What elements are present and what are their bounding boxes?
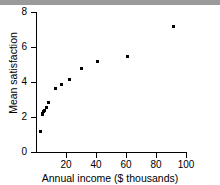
- y-tick: [31, 47, 36, 48]
- data-point: [96, 60, 99, 63]
- y-tick: [31, 12, 36, 13]
- data-point: [47, 101, 50, 104]
- data-point: [39, 130, 42, 133]
- x-tick-label: 100: [174, 160, 198, 170]
- x-tick-label: 40: [84, 160, 108, 170]
- x-tick-label: 20: [54, 160, 78, 170]
- data-point: [54, 87, 57, 90]
- y-tick: [31, 117, 36, 118]
- data-point: [68, 78, 71, 81]
- x-tick: [126, 153, 127, 158]
- data-point: [43, 109, 46, 112]
- data-point: [172, 25, 175, 28]
- y-axis-line: [36, 12, 37, 153]
- y-tick: [31, 152, 36, 153]
- x-tick: [96, 153, 97, 158]
- x-axis-line: [36, 152, 187, 153]
- x-axis-label: Annual income ($ thousands): [0, 172, 220, 184]
- data-point: [126, 55, 129, 58]
- x-tick: [66, 153, 67, 158]
- x-tick: [156, 153, 157, 158]
- data-point: [60, 83, 63, 86]
- y-tick-label: 0: [13, 147, 27, 157]
- x-tick: [186, 153, 187, 158]
- y-tick: [31, 82, 36, 83]
- data-point: [80, 67, 83, 70]
- data-point: [45, 106, 48, 109]
- x-tick-label: 80: [144, 160, 168, 170]
- y-axis-label: Mean satisfaction: [7, 8, 19, 138]
- x-tick-label: 60: [114, 160, 138, 170]
- scatter-plot-figure: 02468 20406080100 Annual income ($ thous…: [0, 5, 220, 185]
